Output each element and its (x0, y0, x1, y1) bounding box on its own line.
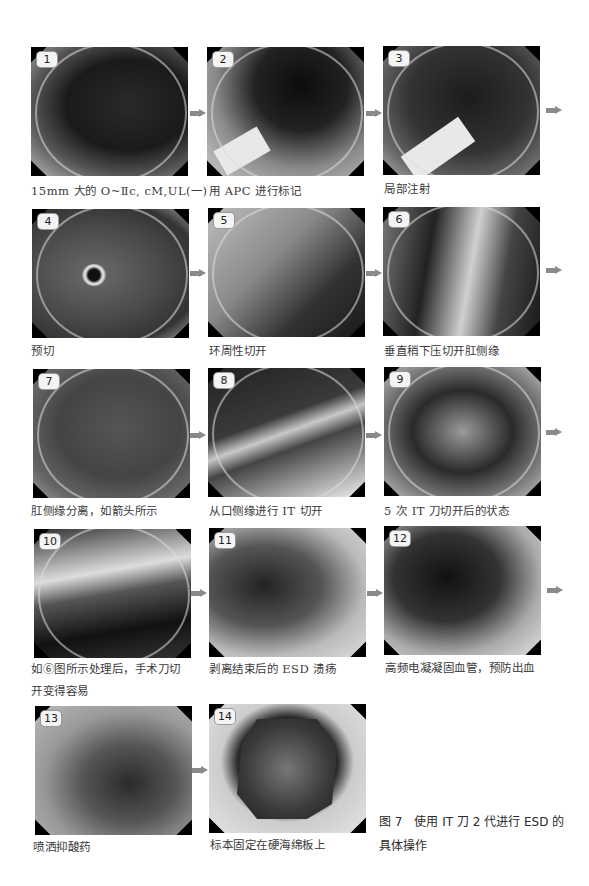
panel-number-badge: 14 (215, 709, 235, 724)
panel-number-badge: 12 (390, 531, 410, 546)
right-arrow-icon (192, 766, 208, 775)
endoscopy-image-12: 12 (384, 526, 541, 655)
panel-caption-10-line2: 开变得容易 (31, 680, 89, 702)
endoscopy-image-13: 13 (35, 706, 192, 835)
right-arrow-icon (190, 109, 206, 118)
panel-caption-6: 垂直稍下压切开肛侧缘 (384, 340, 499, 362)
right-arrow-icon (366, 269, 382, 278)
panel-number-badge: 11 (215, 533, 235, 548)
right-arrow-icon (546, 106, 562, 115)
endoscopy-image-7: 7 (33, 369, 190, 498)
right-arrow-icon (366, 431, 382, 440)
endoscopy-image-2: 2 (207, 47, 364, 176)
endoscopy-image-10: 10 (34, 529, 191, 658)
panel-caption-1: 15mm 大的 O~Ⅱc, cM,UL(一) (31, 180, 208, 202)
panel-caption-11: 剥离结束后的 ESD 溃疡 (209, 658, 336, 680)
panel-caption-10-line1: 如⑥图所示处理后，手术刀切 (31, 658, 181, 680)
panel-number-badge: 5 (214, 213, 234, 228)
panel-caption-12: 高频电凝凝固血管，预防出血 (385, 657, 535, 679)
figure-caption: 图 7 使用 IT 刀 2 代进行 ESD 的 具体操作 (379, 810, 579, 858)
right-arrow-icon (190, 269, 206, 278)
right-arrow-icon (191, 589, 207, 598)
endoscopy-image-11: 11 (209, 528, 366, 657)
endoscopy-image-6: 6 (383, 207, 540, 336)
panel-caption-9: 5 次 IT 刀切开后的状态 (384, 500, 510, 522)
panel-number-badge: 2 (213, 52, 233, 67)
panel-number-badge: 6 (389, 212, 409, 227)
panel-number-badge: 4 (38, 214, 58, 229)
panel-number-badge: 10 (40, 534, 60, 549)
right-arrow-icon (190, 431, 206, 440)
panel-caption-4: 预切 (31, 340, 54, 362)
endoscopy-image-9: 9 (384, 367, 541, 496)
right-arrow-icon (546, 266, 562, 275)
right-arrow-icon (546, 428, 562, 437)
right-arrow-icon (547, 586, 563, 595)
endoscopy-image-8: 8 (208, 368, 365, 497)
panel-caption-7: 肛侧缘分离，如箭头所示 (31, 500, 158, 522)
panel-caption-14: 标本固定在硬海绵板上 (210, 834, 325, 856)
right-arrow-icon (367, 589, 383, 598)
panel-caption-8: 从口侧缘进行 IT 切开 (209, 500, 323, 522)
right-arrow-icon (366, 109, 382, 118)
panel-caption-2: 用 APC 进行标记 (209, 180, 301, 202)
panel-number-badge: 1 (37, 52, 57, 67)
panel-caption-5: 环周性切开 (209, 340, 267, 362)
panel-caption-3: 局部注射 (384, 178, 430, 200)
panel-number-badge: 9 (390, 372, 410, 387)
endoscopy-image-4: 4 (32, 209, 189, 338)
endoscopy-image-1: 1 (31, 47, 188, 176)
panel-number-badge: 7 (39, 374, 59, 389)
endoscopy-image-3: 3 (383, 46, 540, 175)
panel-number-badge: 13 (41, 711, 61, 726)
panel-number-badge: 8 (214, 373, 234, 388)
figure-title-line2: 具体操作 (379, 834, 579, 858)
panel-caption-13: 喷洒抑酸药 (33, 836, 91, 858)
specimen-image-14: 14 (209, 704, 366, 833)
endoscopy-image-5: 5 (208, 208, 365, 337)
figure-title-line1: 图 7 使用 IT 刀 2 代进行 ESD 的 (379, 810, 579, 834)
panel-number-badge: 3 (389, 51, 409, 66)
